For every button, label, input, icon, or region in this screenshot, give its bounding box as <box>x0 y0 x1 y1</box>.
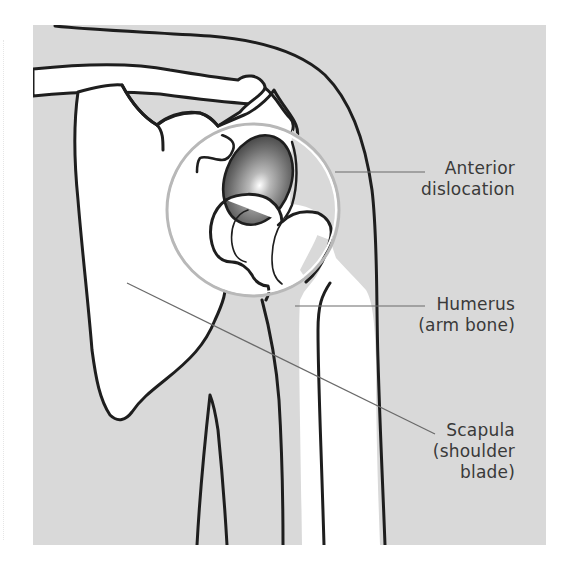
label-humerus-line1: Humerus <box>418 294 515 315</box>
label-scapula-line2: (shoulder <box>433 441 515 462</box>
label-anterior-dislocation-line1: Anterior <box>421 158 515 179</box>
label-humerus: Humerus (arm bone) <box>418 294 515 336</box>
label-anterior-dislocation: Anterior dislocation <box>421 158 515 200</box>
label-scapula-line1: Scapula <box>433 420 515 441</box>
shoulder-dislocation-diagram: Anterior dislocation Humerus (arm bone) … <box>0 0 565 567</box>
label-humerus-line2: (arm bone) <box>418 315 515 336</box>
label-scapula-line3: blade) <box>433 462 515 483</box>
label-anterior-dislocation-line2: dislocation <box>421 179 515 200</box>
label-scapula: Scapula (shoulder blade) <box>433 420 515 483</box>
